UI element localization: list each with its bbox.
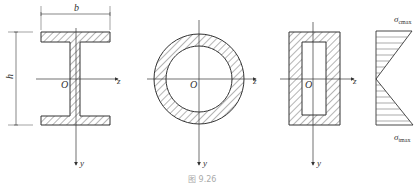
z-axis-label: z <box>116 76 121 86</box>
origin-label: O <box>305 79 312 90</box>
hollow-rectangle-shape <box>289 32 340 125</box>
height-label: h <box>4 74 15 79</box>
i-section: b h z y O <box>4 2 121 168</box>
y-axis-label: y <box>316 158 321 168</box>
figure-caption: 图 9.26 <box>188 175 216 184</box>
z-axis-label: z <box>252 76 257 86</box>
stress-profile <box>376 31 413 125</box>
bending-stress-figure: b h z y O z y O z y O <box>0 0 416 187</box>
stress-diagram: σcmax σtmax <box>376 14 413 143</box>
compressive-stress-label: σcmax <box>394 14 411 25</box>
tensile-stress-label: σtmax <box>394 132 410 143</box>
circular-section: z y O <box>147 20 257 168</box>
rectangular-section: z y O <box>280 22 357 168</box>
z-axis-label: z <box>352 76 357 86</box>
width-label: b <box>74 2 79 13</box>
stress-hatch-lines <box>376 37 410 121</box>
height-dimension: h <box>4 32 33 125</box>
i-beam-shape <box>41 32 110 125</box>
origin-label: O <box>190 79 197 90</box>
y-axis-label: y <box>202 158 207 168</box>
width-dimension: b <box>41 2 110 30</box>
y-axis-label: y <box>79 158 84 168</box>
origin-label: O <box>61 79 68 90</box>
